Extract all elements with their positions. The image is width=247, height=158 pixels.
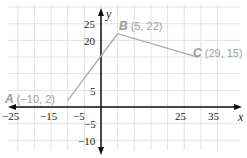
- coordinate-plot: yx−25−15−5253525205−5−10A (−10, 2)B (5, …: [0, 0, 247, 158]
- x-tick-label: 25: [175, 110, 187, 122]
- x-tick-label: −25: [2, 110, 20, 122]
- x-tick-label: 35: [208, 110, 220, 122]
- x-axis-label: x: [237, 110, 244, 124]
- y-axis-up-arrow-icon: [98, 8, 104, 16]
- y-axis-down-arrow-icon: [98, 147, 104, 155]
- y-tick-label: −10: [78, 135, 96, 147]
- point-label-c: C (29, 15): [193, 46, 243, 60]
- y-tick-label: 20: [84, 35, 96, 47]
- y-tick-label: 5: [90, 85, 96, 97]
- x-tick-label: −15: [40, 110, 58, 122]
- point-label-b: B (5, 22): [119, 19, 163, 33]
- y-tick-label: −5: [84, 118, 96, 130]
- y-axis-label: y: [105, 7, 112, 21]
- y-tick-label: 25: [84, 18, 96, 30]
- point-label-a: A (−10, 2): [4, 92, 55, 106]
